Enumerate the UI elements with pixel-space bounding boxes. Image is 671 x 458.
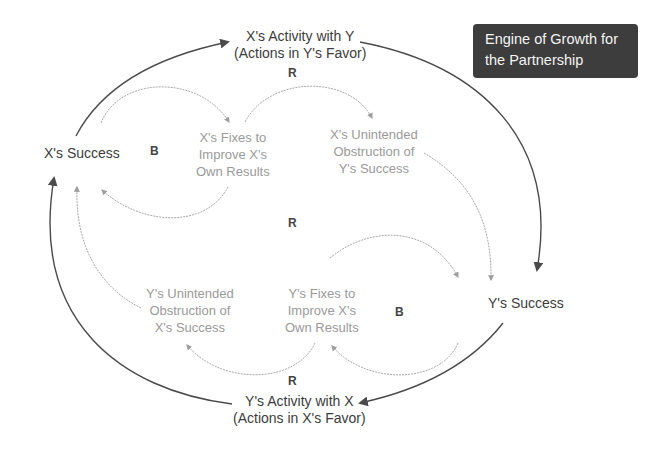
arrow-y-fixes-to-y-success [330,235,458,277]
arrow-y-obstruction-to-x-success [77,187,141,308]
arrow-x-obstruction-to-y-success [424,153,491,280]
node-y-fixes: Y's Fixes to Improve X's Own Results [285,285,359,336]
arrow-x-fixes-to-x-obstruction [245,86,372,122]
diagram-title-box: Engine of Growth for the Partnership [473,24,638,78]
loop-label-bottom-reinforcing: R [288,374,297,388]
loop-label-center-reinforcing: R [288,216,297,230]
node-x-obstruction: X's Unintended Obstruction of Y's Succes… [330,126,418,177]
arrow-y-fixes-to-y-obstruction [187,343,315,375]
node-y-activity: Y's Activity with X (Actions in X's Favo… [233,393,366,427]
loop-label-top-reinforcing: R [288,66,297,80]
node-y-success: Y's Success [488,295,564,312]
arrow-x-success-to-x-fixes [101,87,229,123]
title-line-2: the Partnership [485,50,638,71]
loop-label-left-balancing: B [150,144,159,158]
node-x-fixes: X's Fixes to Improve X's Own Results [196,129,270,180]
loop-label-right-balancing: B [395,305,404,319]
node-y-obstruction: Y's Unintended Obstruction of X's Succes… [146,285,234,336]
arrow-y-success-to-y-activity [360,323,503,403]
node-x-success: X's Success [44,145,120,162]
causal-loop-diagram: Engine of Growth for the Partnership X's… [0,0,671,458]
arrow-y-success-to-y-fixes [332,343,458,375]
arrow-x-fixes-to-x-success [102,187,228,218]
arrow-x-success-to-x-activity [76,42,228,136]
title-line-1: Engine of Growth for [485,29,638,50]
node-x-activity: X's Activity with Y (Actions in Y's Favo… [234,28,366,62]
